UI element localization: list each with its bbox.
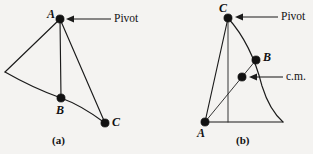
label-point-a: A xyxy=(47,8,55,20)
cm-arrow-head xyxy=(249,74,257,81)
figure-svg xyxy=(0,0,313,154)
line-a-through-cm-to-b xyxy=(205,60,256,122)
caption-panel-a: (a) xyxy=(52,135,65,146)
figure-container: A B C Pivot (a) C B A Pivot c.m. (b) xyxy=(0,0,313,154)
label-pivot-b: Pivot xyxy=(281,11,305,23)
edge-c-to-a xyxy=(205,18,228,122)
panel-b-geometry xyxy=(201,14,283,127)
label-pivot-a: Pivot xyxy=(114,13,138,25)
curve-left-vertex-through-b-to-c xyxy=(5,72,105,123)
pivot-arrow-head-b xyxy=(235,14,243,21)
point-a-dot-b xyxy=(201,118,209,126)
label-point-b-b: B xyxy=(263,51,271,63)
line-a-to-b xyxy=(60,19,61,98)
label-point-a-b: A xyxy=(197,127,205,139)
label-point-c: C xyxy=(112,116,120,128)
point-a-dot xyxy=(56,15,64,23)
point-b-dot xyxy=(57,94,65,102)
label-point-c-b: C xyxy=(219,2,227,14)
point-c-dot xyxy=(101,119,109,127)
label-point-b: B xyxy=(56,104,64,116)
curve-c-to-right-vertex xyxy=(228,18,283,122)
point-b-dot-b xyxy=(252,56,260,64)
label-center-of-mass: c.m. xyxy=(286,71,306,83)
caption-panel-b: (b) xyxy=(236,135,249,146)
point-c-dot-b xyxy=(224,14,232,22)
center-of-mass-dot xyxy=(238,73,246,81)
edge-a-to-left-vertex xyxy=(5,19,60,72)
pivot-arrow-head-a xyxy=(66,16,74,23)
